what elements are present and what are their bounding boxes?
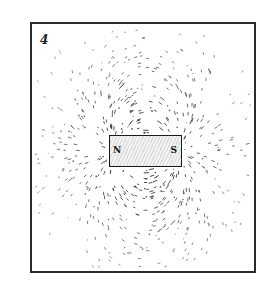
south-pole-label: S bbox=[171, 145, 178, 155]
bar-magnet: N S bbox=[109, 135, 182, 167]
north-pole-label: N bbox=[113, 145, 121, 155]
figure-number: 4 bbox=[40, 33, 48, 47]
